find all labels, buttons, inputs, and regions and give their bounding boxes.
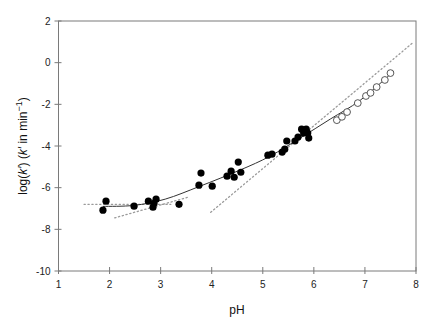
x-tick-label: 2 (107, 279, 113, 290)
x-tick-label: 1 (56, 279, 62, 290)
fit-curve-path (103, 71, 394, 206)
plot-border (59, 21, 417, 271)
open-data-point (354, 100, 361, 107)
filled-data-point (175, 201, 182, 208)
asymptote-lines (84, 42, 413, 218)
filled-data-point (195, 182, 202, 189)
x-axis-label: pH (229, 303, 244, 317)
filled-data-point (231, 174, 238, 181)
filled-data-point (102, 198, 109, 205)
data-points (99, 70, 394, 214)
y-axis-label: log(k′) (k′ in min−1) (14, 97, 30, 194)
filled-data-point (268, 151, 275, 158)
filled-data-point (281, 146, 288, 153)
x-tick-label: 8 (413, 279, 419, 290)
y-tick-label: -10 (36, 266, 51, 277)
filled-data-point (283, 137, 290, 144)
filled-data-point (130, 203, 137, 210)
y-tick-label: -4 (42, 141, 51, 152)
open-data-point (344, 109, 351, 116)
filled-data-point (209, 183, 216, 190)
x-tick-label: 7 (362, 279, 368, 290)
filled-data-point (152, 196, 159, 203)
y-axis-ticks: -10-8-6-4-202 (36, 16, 61, 277)
fit-curve (103, 71, 394, 206)
open-data-point (367, 89, 374, 96)
y-tick-label: -6 (42, 182, 51, 193)
open-data-point (373, 84, 380, 91)
open-data-point (387, 70, 394, 77)
x-tick-label: 5 (260, 279, 266, 290)
x-tick-label: 6 (311, 279, 317, 290)
y-tick-label: 0 (45, 57, 51, 68)
filled-data-point (99, 207, 106, 214)
y-tick-label: -8 (42, 224, 51, 235)
open-data-point (381, 77, 388, 84)
chart-canvas: 12345678 -10-8-6-4-202 pH log(k′) (k′ in… (0, 0, 433, 325)
x-tick-label: 4 (209, 279, 215, 290)
x-tick-label: 3 (158, 279, 164, 290)
filled-data-point (235, 158, 242, 165)
asymptote-line (211, 42, 414, 212)
y-tick-label: -2 (42, 99, 51, 110)
filled-data-point (197, 169, 204, 176)
filled-data-point (300, 129, 307, 136)
plot-frame (59, 21, 417, 271)
x-axis-ticks: 12345678 (56, 267, 420, 290)
filled-data-point (237, 169, 244, 176)
y-tick-label: 2 (45, 16, 51, 27)
